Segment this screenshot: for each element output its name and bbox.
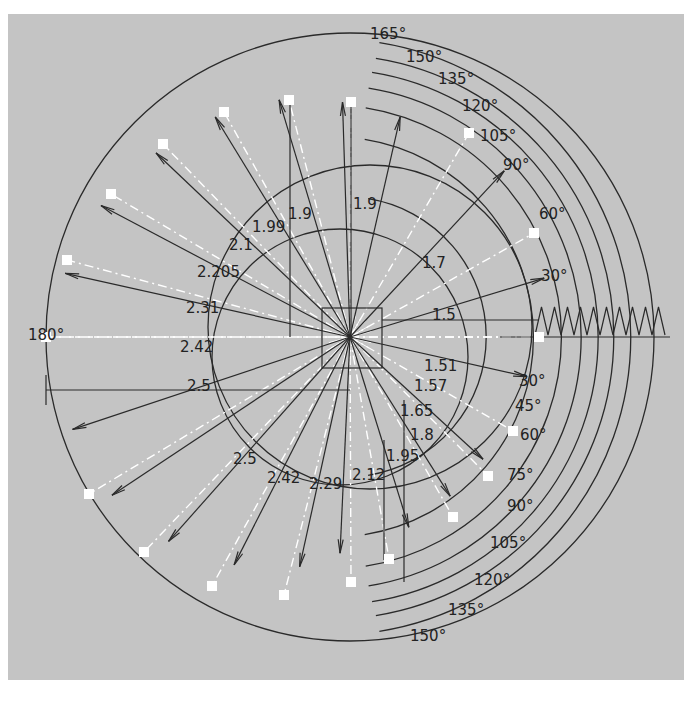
profile-point-markers [41, 95, 544, 600]
angle-label: 120° [462, 97, 498, 115]
profile-point-marker [464, 128, 474, 138]
radius-label: 1.51 [424, 357, 457, 375]
angle-label: 105° [490, 534, 526, 552]
arrowhead [475, 448, 483, 459]
profile-point-marker [346, 97, 356, 107]
radius-label: 2.1 [229, 236, 253, 254]
angle-label: 60° [520, 426, 547, 444]
angle-label: 120° [474, 571, 510, 589]
angle-label: 150° [406, 48, 442, 66]
angle-label: 30° [519, 372, 546, 390]
cam-profile-diagram: 165°150°135°120°105°90°60°30°180°30°45°6… [0, 0, 696, 703]
arrowhead [169, 529, 176, 541]
profile-point-marker [346, 577, 356, 587]
profile-point-marker [139, 547, 149, 557]
radius-label: 1.5 [432, 306, 456, 324]
profile-point-marker [284, 95, 294, 105]
angle-label: 60° [539, 205, 566, 223]
angle-label: 105° [480, 127, 516, 145]
angle-label: 135° [438, 70, 474, 88]
angle-label: 45° [515, 397, 542, 415]
angle-label: 90° [507, 497, 534, 515]
radius-label: 2.42 [180, 338, 213, 356]
angle-label: 30° [541, 267, 568, 285]
arrowhead [65, 273, 79, 274]
profile-point-marker [448, 512, 458, 522]
displacement-zigzag [535, 307, 665, 337]
arrowhead [441, 486, 450, 496]
angle-label: 180° [28, 326, 64, 344]
profile-point-marker [84, 489, 94, 499]
arrowhead [400, 117, 401, 131]
radius-label: 2.31 [186, 299, 219, 317]
profile-point-marker [529, 228, 539, 238]
radius-dimension-arrow [350, 117, 400, 337]
profile-point-marker [279, 590, 289, 600]
radius-label: 2.12 [352, 466, 385, 484]
radial-construction-line [350, 337, 351, 582]
arrowhead [156, 153, 164, 164]
radius-label: 1.9 [288, 205, 312, 223]
radius-label: 2.42 [267, 469, 300, 487]
profile-point-marker [207, 581, 217, 591]
radius-label: 1.99 [252, 218, 285, 236]
radius-label: 1.57 [414, 377, 447, 395]
angle-label: 150° [410, 627, 446, 645]
angle-label: 165° [370, 25, 406, 43]
radius-label: 1.65 [400, 402, 433, 420]
profile-point-marker [106, 189, 116, 199]
radius-label: 2.5 [233, 450, 257, 468]
angle-label: 90° [503, 156, 530, 174]
arrowhead [156, 153, 168, 161]
profile-point-marker [158, 139, 168, 149]
radius-label: 2.5 [187, 377, 211, 395]
profile-point-marker [483, 471, 493, 481]
arrowhead [112, 486, 122, 496]
radius-label: 1.9 [353, 195, 377, 213]
radius-label: 1.7 [422, 254, 446, 272]
radial-construction-line [284, 337, 350, 595]
profile-point-marker [219, 107, 229, 117]
arrowhead [169, 533, 180, 542]
radius-label: 1.95 [386, 447, 419, 465]
angle-label: 135° [448, 601, 484, 619]
arrowhead [300, 553, 301, 567]
radius-labels: 1.91.91.992.12.2052.312.422.51.71.51.511… [180, 195, 457, 493]
profile-point-marker [62, 255, 72, 265]
mid-construction-circle [208, 165, 532, 489]
radius-label: 2.29 [309, 475, 342, 493]
profile-point-marker [384, 554, 394, 564]
angle-label: 75° [507, 466, 534, 484]
profile-point-marker [534, 332, 544, 342]
radius-label: 1.8 [410, 426, 434, 444]
profile-point-marker [508, 426, 518, 436]
radius-label: 2.205 [197, 263, 240, 281]
construction-rays [46, 100, 539, 595]
radial-construction-line [89, 337, 350, 494]
radius-dimension-lines [46, 100, 544, 582]
radius-dimension-arrow [343, 102, 350, 337]
radius-dimension-arrow [300, 337, 350, 567]
arrowhead [471, 452, 483, 459]
displacement-graph [500, 307, 670, 337]
